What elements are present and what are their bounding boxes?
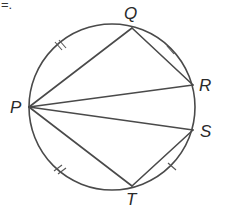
chord-st	[132, 130, 193, 186]
label-s: S	[200, 122, 212, 141]
arc-tp-double-tick	[54, 165, 66, 174]
label-r: R	[199, 76, 211, 95]
fragment-text: =.	[1, 0, 12, 12]
label-q: Q	[124, 4, 137, 23]
label-t: T	[126, 190, 138, 209]
chord-qr	[132, 28, 193, 85]
circle-diagram: =. P Q R S T	[0, 0, 227, 215]
label-p: P	[10, 98, 22, 117]
